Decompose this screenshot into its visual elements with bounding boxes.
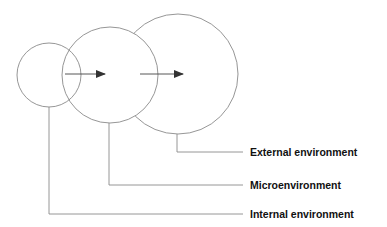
label-external-environment: External environment	[250, 147, 357, 158]
external-leader-line	[177, 134, 243, 152]
microenvironment-circle	[62, 27, 158, 123]
environment-diagram	[0, 0, 387, 227]
label-microenvironment: Microenvironment	[250, 180, 341, 191]
diagram-canvas: External environment Microenvironment In…	[0, 0, 387, 227]
label-internal-environment: Internal environment	[250, 209, 354, 220]
